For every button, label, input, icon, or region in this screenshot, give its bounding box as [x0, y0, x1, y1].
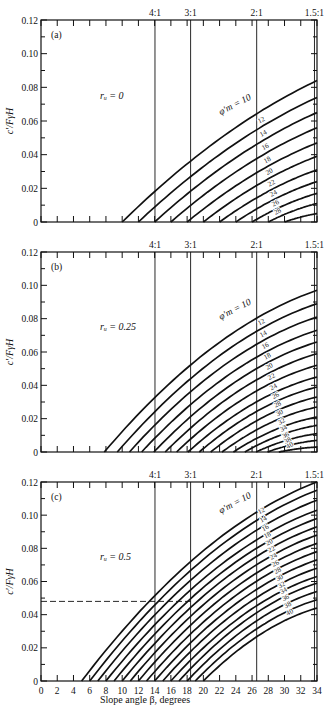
x-tick-label: 22: [215, 686, 225, 696]
curve-phi-28: [211, 397, 317, 452]
slope-ratio-label: 4:1: [149, 240, 161, 250]
x-tick-label: 0: [39, 686, 44, 696]
y-tick-label: 0.10: [21, 511, 38, 521]
x-tick-label: 2: [55, 686, 60, 696]
curve-label: φ′m = 10: [217, 296, 253, 321]
slope-ratio-label: 2:1: [251, 8, 263, 18]
x-tick-label: 28: [264, 686, 274, 696]
x-tick-label: 20: [199, 686, 209, 696]
x-tick-label: 4: [71, 686, 76, 696]
slope-ratio-label: 3:1: [185, 470, 197, 480]
slope-ratio-label: 1.5:1: [305, 470, 325, 480]
plot-frame: [41, 252, 317, 452]
curve-phi-38: [195, 600, 317, 681]
curve-phi-22: [220, 170, 317, 222]
chart-panel-a: 00.020.040.060.080.100.12c′/FγH(a)rᵤ = 0…: [4, 8, 324, 228]
y-tick-label: 0: [33, 448, 38, 458]
y-tick-label: 0.04: [21, 610, 38, 620]
chart-panel-c: 00.020.040.060.080.100.12c′/FγH(c)rᵤ = 0…: [4, 470, 324, 696]
ru-annotation: rᵤ = 0.25: [100, 321, 136, 332]
y-tick-label: 0.02: [21, 184, 38, 194]
y-tick-label: 0: [33, 677, 38, 687]
slope-ratio-label: 3:1: [185, 8, 197, 18]
x-tick-label: 34: [312, 686, 322, 696]
y-tick-label: 0.04: [21, 150, 38, 160]
slope-stability-chart: 00.020.040.060.080.100.12c′/FγH(a)rᵤ = 0…: [0, 0, 328, 713]
y-tick-label: 0: [33, 218, 38, 228]
panel-label: (c): [51, 492, 62, 503]
panel-label: (a): [51, 30, 62, 41]
x-axis-label: Slope angle β, degrees: [100, 694, 190, 705]
slope-ratio-label: 4:1: [149, 470, 161, 480]
y-tick-label: 0.04: [21, 381, 38, 391]
y-tick-label: 0.02: [21, 414, 38, 424]
slope-ratio-label: 4:1: [149, 8, 161, 18]
y-tick-label: 0.02: [21, 643, 38, 653]
slope-ratio-label: 2:1: [251, 470, 263, 480]
slope-ratio-label: 3:1: [185, 240, 197, 250]
x-tick-label: 32: [296, 686, 306, 696]
x-tick-label: 30: [280, 686, 290, 696]
x-tick-label: 6: [87, 686, 92, 696]
slope-ratio-label: 2:1: [251, 240, 263, 250]
y-tick-label: 0.08: [21, 544, 38, 554]
curve-phi-20: [203, 156, 317, 222]
curve-label: φ′m = 10: [217, 92, 253, 117]
y-axis-label: c′/FγH: [4, 107, 15, 134]
y-tick-label: 0.12: [21, 16, 38, 26]
y-tick-label: 0.10: [21, 49, 38, 59]
y-tick-label: 0.06: [21, 348, 38, 358]
y-axis-label: c′/FγH: [4, 567, 15, 594]
ru-annotation: rᵤ = 0: [100, 90, 124, 101]
y-tick-label: 0.08: [21, 314, 38, 324]
y-tick-label: 0.12: [21, 248, 38, 258]
curve-phi-32: [233, 417, 317, 452]
curve-phi-22: [177, 365, 317, 452]
slope-ratio-label: 1.5:1: [305, 240, 325, 250]
slope-ratio-label: 1.5:1: [305, 8, 325, 18]
y-tick-label: 0.08: [21, 83, 38, 93]
curve-label: φ′m = 10: [217, 490, 253, 515]
curve-phi-10: [122, 81, 317, 222]
ru-annotation: rᵤ = 0.5: [100, 551, 131, 562]
panel-label: (b): [51, 262, 62, 273]
y-tick-label: 0.10: [21, 281, 38, 291]
x-tick-label: 24: [231, 686, 241, 696]
chart-panel-b: 00.020.040.060.080.100.12c′/FγH(b)rᵤ = 0…: [4, 240, 324, 458]
x-tick-label: 26: [247, 686, 257, 696]
y-tick-label: 0.12: [21, 478, 38, 488]
y-tick-label: 0.06: [21, 577, 38, 587]
curve-phi-34: [179, 583, 317, 681]
y-tick-label: 0.06: [21, 117, 38, 127]
y-axis-label: c′/FγH: [4, 338, 15, 365]
